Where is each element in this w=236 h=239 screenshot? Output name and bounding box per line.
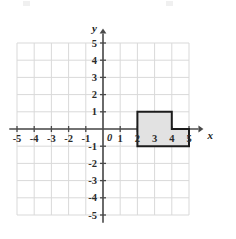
y-axis-tick-label: -2 xyxy=(88,158,97,169)
x-axis-tick-label: -4 xyxy=(30,133,39,144)
coordinate-plane-figure: -5-4-3-2-112345-5-4-3-2-112345 0xy xyxy=(0,0,236,239)
x-axis-tick-label: 4 xyxy=(169,133,175,144)
x-axis-tick-label: 2 xyxy=(135,133,140,144)
axis-lines xyxy=(9,29,203,223)
x-axis-tick-label: 1 xyxy=(118,133,123,144)
y-axis-arrowhead xyxy=(100,29,107,34)
y-axis-tick-label: 1 xyxy=(92,106,97,117)
x-axis-tick-label: 5 xyxy=(186,133,191,144)
y-axis-tick-label: 2 xyxy=(92,89,97,100)
x-axis-tick-label: 3 xyxy=(152,133,157,144)
shaded-polygon xyxy=(137,112,189,146)
y-axis-tick-label: -3 xyxy=(88,175,97,186)
x-axis-tick-label: -5 xyxy=(13,133,22,144)
x-axis-name-label: x xyxy=(206,129,213,141)
y-axis-name-label: y xyxy=(90,22,97,34)
y-axis-tick-label: 5 xyxy=(92,38,97,49)
x-axis-tick-label: -2 xyxy=(64,133,73,144)
y-axis-tick-label: -5 xyxy=(88,210,97,221)
y-axis-tick-label: -1 xyxy=(88,141,97,152)
origin-label: 0 xyxy=(107,132,113,143)
y-axis-tick-label: 4 xyxy=(92,55,98,66)
shaded-polygon xyxy=(137,112,189,146)
y-axis-tick-label: -4 xyxy=(88,192,97,203)
graph-canvas: -5-4-3-2-112345-5-4-3-2-112345 0xy xyxy=(0,0,236,239)
y-axis-tick-label: 3 xyxy=(92,72,97,83)
x-axis-arrowhead xyxy=(198,126,203,133)
x-axis-tick-label: -3 xyxy=(47,133,56,144)
